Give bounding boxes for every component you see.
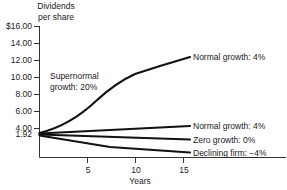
y-tick-label-10: 10.00 xyxy=(0,72,32,82)
y-tick-label-14: 14.00 xyxy=(0,38,32,48)
chart-title: Dividends per share xyxy=(14,1,98,22)
supernormal-annotation-line1: Supernormal xyxy=(50,71,99,82)
normal-growth-label: Normal growth: 4% xyxy=(193,121,265,131)
y-tick-label-6: 6.00 xyxy=(0,106,32,116)
x-axis-title: Years xyxy=(115,176,165,186)
y-tick-label-8: 8.00 xyxy=(0,89,32,99)
x-tick-label-15: 15 xyxy=(176,165,192,175)
supernormal-curve-label: Normal growth: 4% xyxy=(193,52,265,62)
normal-growth-curve xyxy=(40,126,191,134)
supernormal-annotation: Supernormal growth: 20% xyxy=(50,71,99,92)
zero-growth-label: Zero growth: 0% xyxy=(193,135,255,145)
supernormal-annotation-line2: growth: 20% xyxy=(50,82,99,93)
y-tick-label-1-92: 1.92 xyxy=(0,129,32,139)
y-tick-label-12: 12.00 xyxy=(0,55,32,65)
dividend-growth-chart: Dividends per share $16.00 14.00 12.00 1… xyxy=(0,0,287,190)
y-tick-marks xyxy=(34,27,40,129)
supernormal-growth-curve xyxy=(40,57,191,133)
plot-area xyxy=(0,0,287,190)
x-tick-label-5: 5 xyxy=(82,165,94,175)
chart-title-line1: Dividends xyxy=(14,1,98,12)
declining-firm-label: Declining firm: −4% xyxy=(193,148,266,158)
y-tick-label-16: $16.00 xyxy=(0,21,32,31)
x-tick-marks xyxy=(88,158,184,164)
x-tick-label-10: 10 xyxy=(128,165,144,175)
